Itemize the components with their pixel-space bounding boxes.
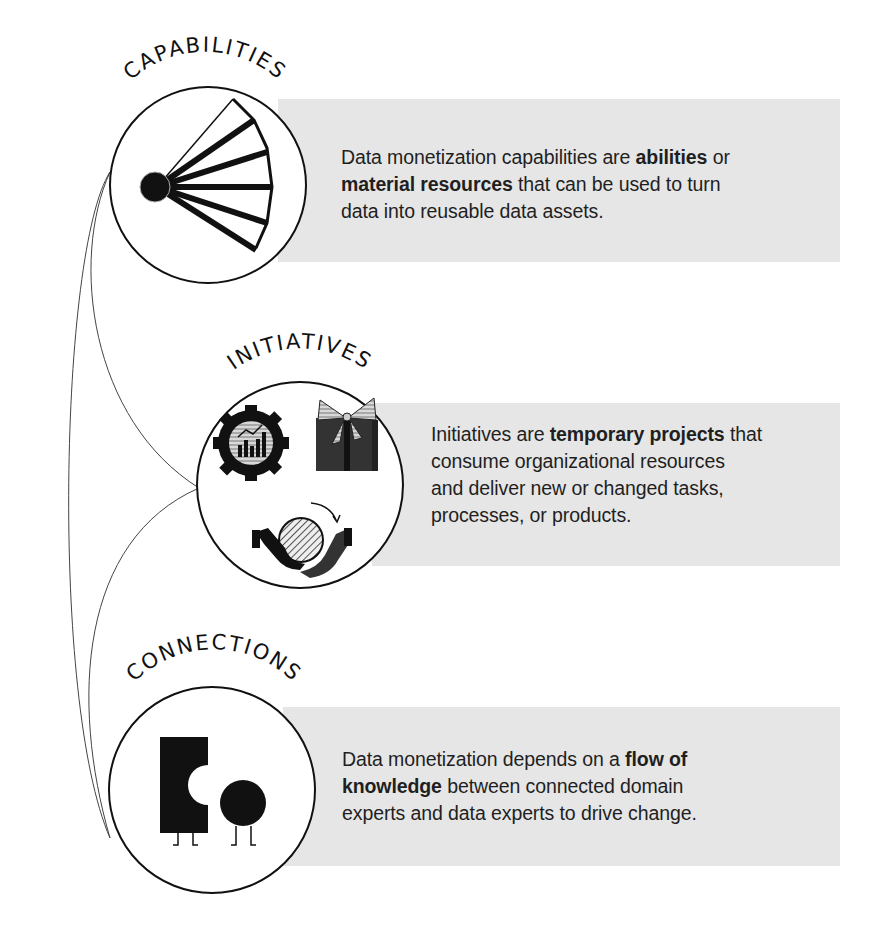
gear-chart-icon [213, 405, 289, 481]
initiatives-description: Initiatives are temporary projects that … [431, 421, 762, 529]
emphasis: material resources [341, 173, 513, 195]
capabilities-title: CAPABILITIES [119, 33, 291, 85]
initiatives-circle: INITIATIVES [197, 329, 403, 588]
emphasis: knowledge [342, 775, 442, 797]
capabilities-circle: CAPABILITIES [110, 33, 306, 283]
capabilities-description: Data monetization capabilities are abili… [341, 144, 730, 225]
connections-description: Data monetization depends on a flow of k… [342, 746, 697, 827]
initiatives-title: INITIATIVES [223, 329, 377, 374]
emphasis: abilities [636, 146, 708, 168]
emphasis: flow of [625, 748, 687, 770]
connections-circle: CONNECTIONS [109, 630, 315, 893]
emphasis: temporary projects [550, 423, 725, 445]
connections-title: CONNECTIONS [122, 630, 307, 686]
